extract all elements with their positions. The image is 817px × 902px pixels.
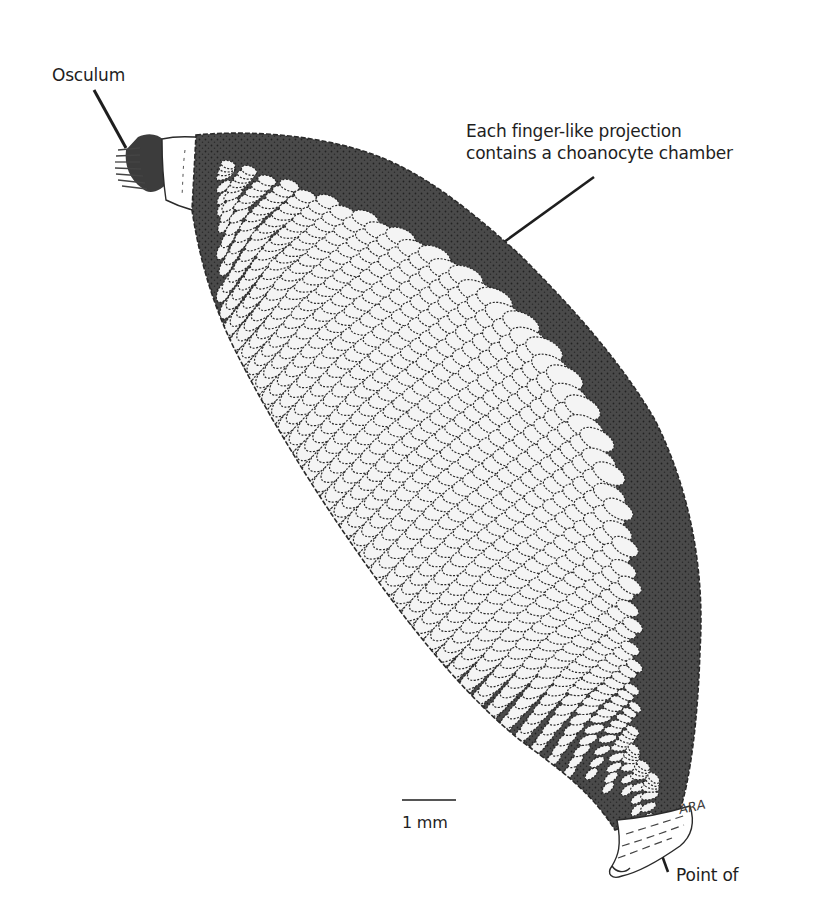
choanocyte-chamber-projections [213, 159, 661, 827]
choanocyte-label-line-2: contains a choanocyte chamber [466, 142, 733, 164]
osculum-label: Osculum [52, 64, 125, 86]
sponge-body [192, 133, 701, 830]
osculum-leader-line [94, 90, 126, 148]
point-of-attachment-label: Point of [676, 864, 738, 886]
choanocyte-chamber-label: Each finger-like projection contains a c… [466, 120, 733, 164]
scale-bar-label: 1 mm [402, 812, 448, 834]
choanocyte-label-line-1: Each finger-like projection [466, 120, 733, 142]
